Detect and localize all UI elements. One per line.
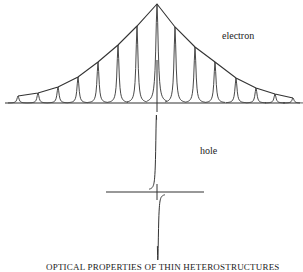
hole-label: hole — [200, 145, 217, 156]
page-caption: OPTICAL PROPERTIES OF THIN HETEROSTRUCTU… — [46, 262, 280, 272]
electron-peak — [88, 62, 108, 102]
electron-peak — [108, 45, 128, 102]
electron-peak — [185, 47, 205, 102]
hole-positive-lobe — [149, 115, 157, 189]
electron-peak — [165, 27, 185, 102]
electron-peak — [205, 62, 225, 102]
electron-peak — [127, 26, 147, 102]
hole-negative-lobe — [157, 195, 165, 260]
electron-peak — [8, 96, 28, 103]
electron-label: electron — [222, 30, 254, 41]
electron-peak — [283, 98, 303, 103]
